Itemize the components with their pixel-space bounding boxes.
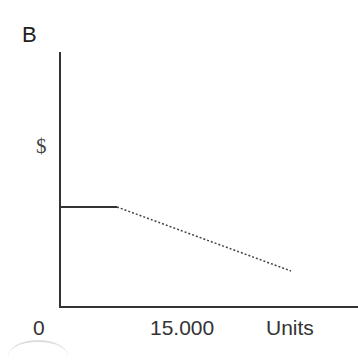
x-tick-zero: 0 <box>33 316 45 340</box>
x-tick-15000: 15.000 <box>150 316 214 340</box>
x-axis-label: Units <box>266 316 314 340</box>
dotted-segment <box>117 207 291 271</box>
